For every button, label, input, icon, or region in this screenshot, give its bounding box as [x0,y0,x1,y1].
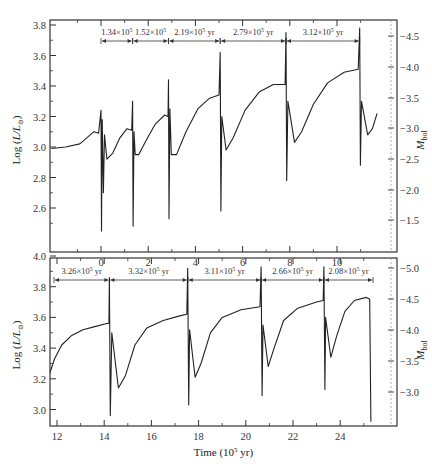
figure: 02468103.83.63.43.23.02.82.6−4.5−4.0−3.5… [0,0,432,464]
interval-annotation: 1.52×105 [133,27,169,44]
x-tick-label: 4 [193,257,199,268]
interval-annotation: 3.12×105 yr [286,27,360,44]
y-tick-label: 4.0 [33,251,46,262]
y-axis-title: Log (L/L⊙) [10,115,25,164]
chart-panel-top: 02468103.83.63.43.23.02.82.6−4.5−4.0−3.5… [10,20,429,268]
right-tick-label: −2.0 [400,185,419,196]
y-tick-label: 3.2 [33,374,46,385]
interval-label: 2.19×105 yr [174,27,215,37]
right-tick-label: −2.5 [400,154,419,165]
chart-panel-bottom: 121416182022244.03.83.63.43.23.0−5.0−4.5… [10,251,429,459]
interval-label: 3.32×105 yr [128,266,169,276]
x-axis-title: Time (105 yr) [194,446,254,459]
y-tick-label: 3.0 [33,405,46,416]
interval-label: 1.52×105 [135,27,166,37]
interval-annotation: 3.26×105 yr [54,266,109,283]
x-tick-label: 22 [288,431,299,442]
y-axis-title: Log (L/L⊙) [10,320,25,369]
y-tick-label: 3.4 [33,81,47,92]
right-tick-label: −3.5 [400,93,419,104]
interval-annotation: 2.19×105 yr [168,27,220,44]
x-tick-label: 20 [241,431,252,442]
x-tick-label: 24 [335,431,346,442]
x-tick-label: 16 [146,431,157,442]
plot-frame [50,258,397,426]
interval-annotation: 1.34×105 [101,27,133,44]
y-tick-label: 3.8 [33,20,46,31]
right-tick-label: −4.5 [400,31,419,42]
right-tick-label: −5.0 [400,263,419,274]
right-tick-label: −4.5 [400,294,419,305]
interval-label: 1.34×105 [101,27,132,37]
y-tick-label: 3.0 [33,142,46,153]
interval-label: 3.26×105 yr [62,266,103,276]
y-tick-label: 2.8 [33,173,46,184]
interval-annotation: 3.32×105 yr [109,266,187,283]
y-tick-label: 3.8 [33,282,46,293]
y-tick-label: 3.4 [33,343,47,354]
right-tick-label: −1.5 [400,215,419,226]
x-tick-label: 18 [193,431,204,442]
interval-label: 3.12×105 yr [303,27,344,37]
y-tick-label: 3.6 [33,51,46,62]
right-tick-label: −3.0 [400,123,419,134]
right-axis-title: Mbol [414,340,429,361]
y-tick-label: 3.6 [33,312,46,323]
right-tick-label: −4.0 [400,325,419,336]
interval-label: 3.11×105 yr [204,266,244,276]
right-tick-label: −3.0 [400,387,419,398]
interval-annotation: 2.66×105 yr [261,266,324,283]
luminosity-curve [51,28,377,231]
luminosity-curve [50,267,371,422]
interval-annotation: 2.08×105 yr [324,266,373,283]
y-tick-label: 2.6 [33,203,46,214]
y-tick-label: 3.2 [33,112,46,123]
interval-annotation: 2.79×105 yr [220,27,286,44]
x-tick-label: 12 [52,431,63,442]
interval-label: 2.79×105 yr [233,27,274,37]
right-tick-label: −4.0 [400,62,419,73]
x-tick-label: 14 [99,431,110,442]
interval-label: 2.66×105 yr [272,266,313,276]
interval-label: 2.08×105 yr [328,266,369,276]
interval-annotation: 3.11×105 yr [188,266,261,283]
